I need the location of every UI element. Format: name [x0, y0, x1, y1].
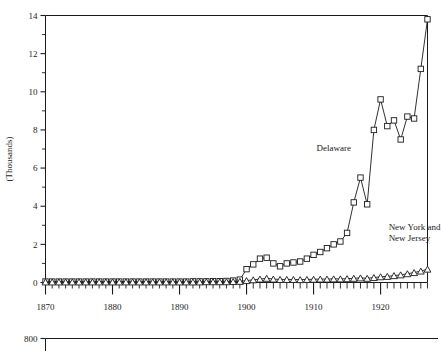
y-tick-label: 12	[29, 49, 38, 59]
marker-square	[405, 114, 410, 119]
marker-square	[297, 259, 302, 264]
series-line-delaware	[46, 19, 428, 281]
marker-square	[358, 175, 363, 180]
marker-square	[378, 97, 383, 102]
x-tick-label: 1870	[37, 302, 56, 312]
delaware-label: Delaware	[316, 143, 350, 153]
marker-square	[244, 266, 249, 271]
marker-triangle	[417, 268, 424, 274]
x-tick-label: 1890	[171, 302, 190, 312]
marker-square	[318, 249, 323, 254]
marker-square	[311, 252, 316, 257]
x-tick-label: 1880	[104, 302, 123, 312]
x-tick-label: 1900	[238, 302, 257, 312]
marker-square	[411, 116, 416, 121]
chart-figure: 02468101214(Thousands)187018801890190019…	[0, 0, 441, 351]
marker-square	[331, 242, 336, 247]
y-tick-label: 0	[33, 278, 38, 288]
marker-square	[304, 256, 309, 261]
y-tick-label: 6	[33, 163, 38, 173]
marker-square	[291, 260, 296, 265]
marker-square	[344, 230, 349, 235]
plot-frame	[46, 16, 428, 283]
marker-square	[418, 66, 423, 71]
marker-square	[391, 118, 396, 123]
marker-square	[251, 262, 256, 267]
marker-square	[425, 17, 430, 22]
y-tick-label: 10	[29, 87, 39, 97]
ny-nj-label-line1: New York and	[389, 222, 441, 232]
marker-square	[284, 261, 289, 266]
chart-svg: 02468101214(Thousands)187018801890190019…	[0, 0, 441, 351]
marker-square	[371, 127, 376, 132]
marker-square	[324, 245, 329, 250]
x-tick-label: 1920	[372, 302, 391, 312]
marker-triangle	[424, 266, 431, 272]
ny-nj-label-line2: New Jersey	[389, 233, 431, 243]
secondary-y-tick-label: 800	[24, 334, 38, 344]
y-tick-label: 2	[33, 240, 38, 250]
marker-square	[351, 200, 356, 205]
y-axis-title: (Thousands)	[4, 137, 14, 182]
marker-square	[271, 261, 276, 266]
y-tick-label: 4	[33, 201, 38, 211]
marker-square	[257, 256, 262, 261]
y-tick-label: 8	[33, 125, 38, 135]
y-tick-label: 14	[29, 11, 39, 21]
marker-square	[277, 264, 282, 269]
marker-square	[398, 137, 403, 142]
marker-square	[385, 123, 390, 128]
marker-square	[364, 202, 369, 207]
marker-square	[264, 255, 269, 260]
marker-square	[338, 239, 343, 244]
x-tick-label: 1910	[305, 302, 324, 312]
